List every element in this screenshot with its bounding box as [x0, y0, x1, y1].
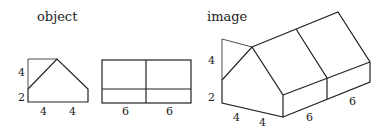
side-right-width-label: 6 [166, 105, 173, 118]
image-title: image [207, 9, 248, 24]
side-left-width-label: 6 [122, 105, 129, 118]
iso-lower-height-label: 2 [208, 91, 215, 104]
iso-width-a-label: 4 [233, 111, 240, 124]
iso-width-b-label: 4 [259, 116, 266, 129]
front-right-width-label: 4 [69, 105, 76, 118]
front-lower-height-label: 2 [18, 91, 25, 104]
isometric-view [222, 12, 370, 117]
object-title: object [37, 9, 78, 24]
iso-upper-height-label: 4 [208, 54, 215, 67]
side-view [102, 60, 191, 103]
front-upper-height-label: 4 [18, 66, 25, 79]
diagram-canvas: object image 4 2 4 4 6 6 4 2 4 4 6 6 [0, 0, 390, 131]
front-left-width-label: 4 [40, 105, 47, 118]
iso-depth-a-label: 6 [306, 111, 313, 124]
iso-depth-b-label: 6 [349, 95, 356, 108]
front-view [28, 59, 88, 102]
